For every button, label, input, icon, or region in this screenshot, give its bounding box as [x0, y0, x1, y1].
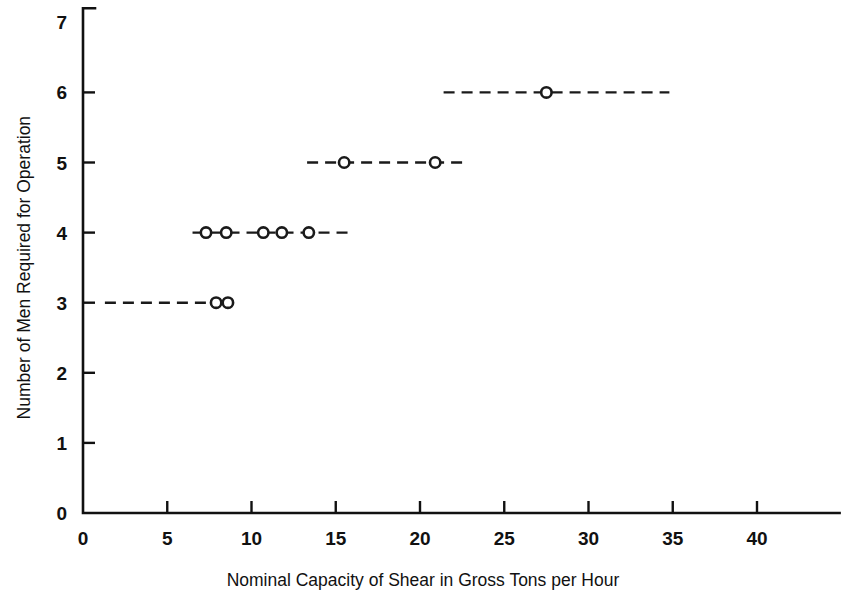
- x-axis-title: Nominal Capacity of Shear in Gross Tons …: [227, 570, 620, 590]
- data-point-marker: [339, 157, 349, 167]
- x-tick-label: 10: [241, 528, 262, 549]
- data-series: [105, 92, 669, 302]
- y-tick-label: 5: [56, 153, 67, 174]
- axes: [83, 8, 840, 513]
- step-chart: 012345670510152025303540 Nominal Capacit…: [0, 0, 859, 595]
- data-point-marker: [258, 227, 268, 237]
- y-tick-label: 4: [56, 223, 67, 244]
- chart-figure: 012345670510152025303540 Nominal Capacit…: [0, 0, 859, 595]
- x-tick-label: 15: [325, 528, 347, 549]
- x-tick-label: 35: [662, 528, 684, 549]
- data-point-marker: [277, 227, 287, 237]
- data-point-marker: [304, 227, 314, 237]
- x-tick-label: 40: [746, 528, 767, 549]
- axis-lines: [83, 8, 840, 513]
- y-tick-label: 7: [56, 12, 67, 33]
- x-tick-label: 25: [494, 528, 516, 549]
- data-point-marker: [541, 87, 551, 97]
- data-point-marker: [430, 157, 440, 167]
- y-tick-label: 3: [56, 293, 67, 314]
- y-tick-label: 0: [56, 503, 67, 524]
- data-markers: [201, 87, 552, 308]
- x-tick-label: 20: [409, 528, 430, 549]
- data-point-marker: [201, 227, 211, 237]
- data-point-marker: [221, 227, 231, 237]
- data-point-marker: [223, 298, 233, 308]
- data-point-marker: [211, 298, 221, 308]
- axis-titles: Nominal Capacity of Shear in Gross Tons …: [14, 116, 619, 590]
- y-tick-label: 1: [56, 433, 67, 454]
- y-tick-label: 2: [56, 363, 67, 384]
- x-tick-label: 5: [162, 528, 173, 549]
- x-tick-label: 30: [578, 528, 599, 549]
- y-tick-label: 6: [56, 82, 67, 103]
- y-axis-title: Number of Men Required for Operation: [14, 116, 34, 419]
- x-tick-label: 0: [78, 528, 89, 549]
